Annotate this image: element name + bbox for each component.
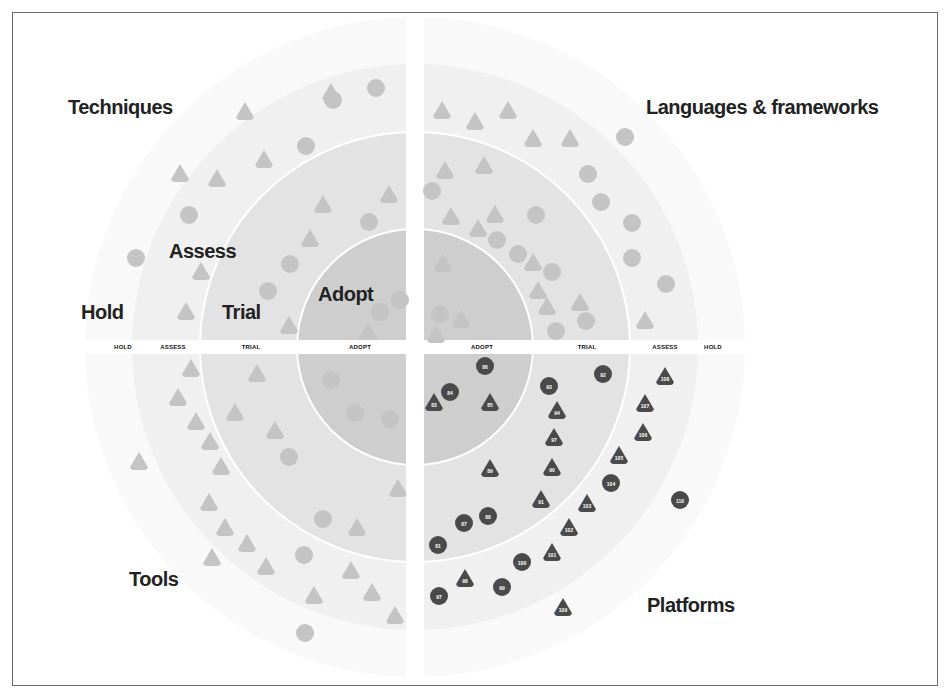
- blip-circle-icon[interactable]: 88: [479, 507, 497, 525]
- blip-circle-icon[interactable]: 97: [430, 587, 448, 605]
- blip-circle-icon[interactable]: [324, 91, 342, 109]
- blip-number: 109: [559, 607, 567, 613]
- blip-circle-icon[interactable]: [346, 404, 364, 422]
- blip-circle-icon[interactable]: 100: [513, 553, 531, 571]
- blip-circle-icon[interactable]: [579, 165, 597, 183]
- blip-circle-icon[interactable]: [547, 322, 565, 340]
- blip-circle-icon[interactable]: [391, 291, 409, 309]
- blip-circle-icon[interactable]: [296, 624, 314, 642]
- blip-number: 94: [554, 410, 560, 416]
- blip-circle-icon[interactable]: [180, 206, 198, 224]
- blip-circle-icon[interactable]: [322, 371, 340, 389]
- axis-label-trial-left: TRIAL: [242, 344, 261, 350]
- blip-number: 99: [499, 585, 505, 591]
- blip-circle-icon[interactable]: [657, 275, 675, 293]
- blip-circle-icon[interactable]: [509, 245, 527, 263]
- blip-number: 100: [518, 560, 526, 566]
- axis-label-adopt-right: ADOPT: [471, 344, 493, 350]
- ring-label-assess: Assess: [169, 240, 236, 263]
- blip-circle-icon[interactable]: [623, 214, 641, 232]
- blip-circle-icon[interactable]: [381, 410, 399, 428]
- blip-circle-icon[interactable]: 81: [429, 536, 447, 554]
- blip-number: 87: [461, 521, 467, 527]
- ring-label-hold: Hold: [81, 301, 123, 324]
- blip-circle-icon[interactable]: [259, 282, 277, 300]
- blip-number: 98: [462, 578, 468, 584]
- blip-number: 107: [641, 403, 649, 409]
- blip-circle-icon[interactable]: 86: [476, 357, 494, 375]
- blip-number: 101: [548, 552, 556, 558]
- axis-label-adopt-left: ADOPT: [349, 344, 371, 350]
- blip-circle-icon[interactable]: [281, 255, 299, 273]
- blip-circle-icon[interactable]: [543, 263, 561, 281]
- blip-circle-icon[interactable]: [314, 510, 332, 528]
- blip-circle-icon[interactable]: [577, 312, 595, 330]
- axis-label-hold-right: HOLD: [704, 344, 722, 350]
- blip-circle-icon[interactable]: [371, 303, 389, 321]
- quadrant-label-tools: Tools: [129, 568, 178, 591]
- blip-circle-icon[interactable]: [367, 79, 385, 97]
- blip-circle-icon[interactable]: 93: [540, 377, 558, 395]
- axis-label-trial-right: TRIAL: [578, 344, 597, 350]
- blip-number: 84: [447, 390, 453, 396]
- blip-number: 108: [661, 376, 669, 382]
- blip-circle-icon[interactable]: 87: [455, 514, 473, 532]
- ring-label-adopt: Adopt: [318, 283, 373, 306]
- blip-number: 85: [487, 402, 493, 408]
- blip-number: 104: [607, 481, 615, 487]
- blip-number: 86: [482, 364, 488, 370]
- blip-number: 103: [583, 503, 591, 509]
- blip-circle-icon[interactable]: 110: [671, 491, 689, 509]
- quadrant-label-techniques: Techniques: [68, 96, 173, 119]
- blip-number: 110: [676, 498, 684, 504]
- blip-circle-icon[interactable]: [488, 231, 506, 249]
- blip-circle-icon[interactable]: [592, 193, 610, 211]
- axis-label-assess-left: ASSESS: [160, 344, 186, 350]
- blip-circle-icon[interactable]: [431, 305, 449, 323]
- blip-number: 105: [615, 455, 623, 461]
- blip-circle-icon[interactable]: [297, 137, 315, 155]
- ring-label-trial: Trial: [222, 301, 261, 324]
- blip-circle-icon[interactable]: [280, 448, 298, 466]
- blip-circle-icon[interactable]: [360, 213, 378, 231]
- blip-circle-icon[interactable]: 104: [602, 474, 620, 492]
- blip-number: 97: [551, 437, 557, 443]
- blip-number: 97: [436, 594, 442, 600]
- quadrant-label-languages-frameworks: Languages & frameworks: [646, 96, 878, 119]
- blip-circle-icon[interactable]: [127, 249, 145, 267]
- blip-number: 92: [600, 372, 606, 378]
- axis-label-hold-left: HOLD: [114, 344, 132, 350]
- blip-number: 81: [435, 543, 441, 549]
- blip-number: 93: [546, 384, 552, 390]
- axis-label-assess-right: ASSESS: [652, 344, 678, 350]
- blip-circle-icon[interactable]: [527, 206, 545, 224]
- quadrant-label-platforms: Platforms: [647, 594, 735, 617]
- blip-circle-icon[interactable]: [623, 249, 641, 267]
- blip-number: 83: [431, 402, 437, 408]
- blip-number: 90: [549, 467, 555, 473]
- blip-circle-icon[interactable]: 84: [441, 383, 459, 401]
- blip-circle-icon[interactable]: [616, 128, 634, 146]
- blip-number: 88: [485, 514, 491, 520]
- blip-number: 89: [487, 468, 493, 474]
- blip-circle-icon[interactable]: [423, 182, 441, 200]
- blip-circle-icon[interactable]: [295, 546, 313, 564]
- blip-circle-icon[interactable]: 99: [493, 578, 511, 596]
- blip-number: 106: [639, 432, 647, 438]
- blip-number: 91: [538, 499, 544, 505]
- blip-circle-icon[interactable]: 92: [594, 365, 612, 383]
- blip-number: 102: [565, 527, 573, 533]
